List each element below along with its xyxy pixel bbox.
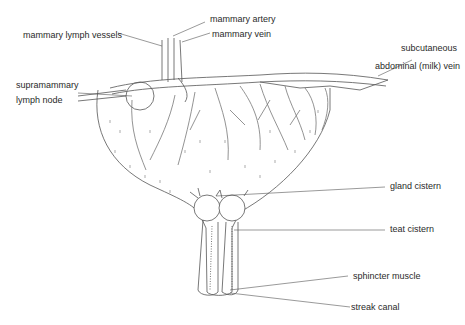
label-mammary-vein: mammary vein [212, 29, 271, 40]
label-teat-cistern: teat cistern [390, 224, 434, 235]
leader-sphincter [230, 276, 348, 290]
label-mammary-artery: mammary artery [210, 14, 276, 25]
udder-diagram: mammary artery mammary lymph vessels mam… [0, 0, 465, 325]
label-supramammary: supramammary [16, 80, 79, 91]
label-lymph-node: lymph node [16, 95, 63, 106]
label-mammary-lymph-vessels: mammary lymph vessels [23, 30, 122, 41]
gland-cistern-right [219, 195, 245, 221]
leader-mammary-vein [182, 33, 210, 42]
leader-lymph-vessels [118, 33, 162, 46]
label-streak-canal: streak canal [351, 302, 400, 313]
leader-streak-canal [230, 293, 350, 307]
leader-mammary-artery [173, 22, 205, 36]
label-sphincter-muscle: sphincter muscle [353, 271, 421, 282]
top-vessel-band [110, 73, 388, 88]
gland-cistern-left [194, 195, 220, 221]
label-gland-cistern: gland cistern [390, 181, 441, 192]
label-subcutaneous: subcutaneous [401, 43, 457, 54]
vertical-vessels [162, 38, 182, 82]
label-abdominal-milk-vein: abdominal (milk) vein [375, 61, 460, 72]
